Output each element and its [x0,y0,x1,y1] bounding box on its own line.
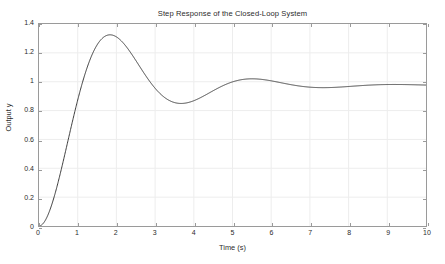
y-tick-mark [423,53,426,54]
y-tick-mark [39,82,42,83]
x-tick-mark [156,24,157,27]
y-tick-mark [423,170,426,171]
y-tick-mark [423,199,426,200]
x-tick-label: 7 [298,229,322,237]
x-tick-label: 8 [337,229,361,237]
x-tick-mark [311,223,312,226]
chart-title: Step Response of the Closed-Loop System [38,9,427,19]
plot-area [38,23,427,227]
x-tick-mark [311,24,312,27]
y-tick-label: 0.2 [10,194,34,202]
x-tick-label: 3 [143,229,167,237]
y-tick-mark [423,111,426,112]
y-tick-label: 0 [10,223,34,231]
x-tick-mark [156,223,157,226]
step-response-curve [39,24,426,226]
x-tick-mark [195,223,196,226]
x-tick-mark [350,223,351,226]
x-tick-mark [272,223,273,226]
y-tick-mark [423,141,426,142]
x-axis-label: Time (s) [38,243,427,252]
x-tick-mark [272,24,273,27]
y-tick-mark [39,53,42,54]
y-tick-mark [39,111,42,112]
x-tick-mark [78,223,79,226]
y-tick-label: 0.8 [10,106,34,114]
figure-canvas: Step Response of the Closed-Loop System … [0,0,445,264]
x-tick-label: 5 [221,229,245,237]
y-tick-label: 0.6 [10,136,34,144]
y-tick-label: 0.4 [10,165,34,173]
y-tick-mark [39,170,42,171]
y-tick-label: 1 [10,77,34,85]
y-axis-label: Output y [4,78,13,158]
y-tick-label: 1.4 [10,19,34,27]
x-tick-mark [234,223,235,226]
x-tick-label: 2 [104,229,128,237]
x-tick-mark [39,223,40,226]
x-tick-label: 9 [376,229,400,237]
x-tick-mark [234,24,235,27]
x-tick-label: 1 [65,229,89,237]
x-tick-label: 10 [415,229,439,237]
y-tick-mark [423,24,426,25]
x-tick-mark [389,24,390,27]
x-tick-mark [428,24,429,27]
y-tick-label: 1.2 [10,48,34,56]
x-tick-mark [195,24,196,27]
y-tick-mark [423,82,426,83]
x-tick-mark [117,223,118,226]
y-tick-mark [39,199,42,200]
x-tick-mark [117,24,118,27]
x-tick-mark [78,24,79,27]
x-tick-mark [350,24,351,27]
x-tick-label: 4 [182,229,206,237]
series-line [39,35,426,226]
x-tick-mark [389,223,390,226]
y-tick-mark [39,141,42,142]
y-tick-mark [39,24,42,25]
x-tick-mark [428,223,429,226]
x-tick-label: 6 [259,229,283,237]
